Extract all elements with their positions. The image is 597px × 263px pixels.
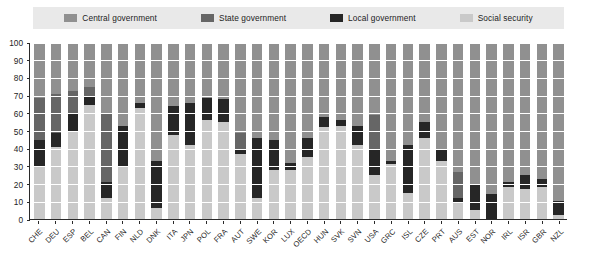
bar-segment: [185, 43, 195, 103]
bar-slot: [31, 43, 48, 219]
x-tick-label: FRA: [212, 227, 229, 244]
y-tick-mark: [27, 60, 30, 61]
bar-slot: [182, 43, 199, 219]
stacked-bar[interactable]: [453, 43, 463, 219]
y-tick-label: 90: [14, 56, 23, 66]
bar-segment: [553, 43, 563, 201]
stacked-bar[interactable]: [302, 43, 312, 219]
bar-slot: [249, 43, 266, 219]
bar-slot: [366, 43, 383, 219]
bar-segment: [168, 43, 178, 106]
stacked-bar[interactable]: [285, 43, 295, 219]
bar-slot: [349, 43, 366, 219]
stacked-bar[interactable]: [386, 43, 396, 219]
stacked-bar[interactable]: [553, 43, 563, 219]
x-tick-mark: [340, 221, 341, 224]
bar-segment: [68, 91, 78, 114]
stacked-bar[interactable]: [352, 43, 362, 219]
x-tick-slot: AUT: [231, 221, 248, 263]
stacked-bar[interactable]: [520, 43, 530, 219]
x-tick-label: CZE: [413, 227, 430, 244]
stacked-bar[interactable]: [403, 43, 413, 219]
bar-segment: [553, 215, 563, 219]
x-tick-mark: [257, 221, 258, 224]
bar-segment: [436, 43, 446, 149]
bar-segment: [202, 120, 212, 219]
stacked-bar[interactable]: [168, 43, 178, 219]
stacked-bar[interactable]: [336, 43, 346, 219]
y-tick-mark: [27, 220, 30, 221]
x-tick-mark: [525, 221, 526, 224]
y-tick-mark: [27, 78, 30, 79]
bar-segment: [336, 43, 346, 120]
stacked-bar[interactable]: [101, 43, 111, 219]
stacked-bar[interactable]: [369, 43, 379, 219]
stacked-bar[interactable]: [419, 43, 429, 219]
x-tick-label: AUT: [229, 227, 246, 244]
bar-segment: [285, 170, 295, 219]
bar-segment: [101, 182, 111, 198]
stacked-bar[interactable]: [202, 43, 212, 219]
bar-segment: [118, 166, 128, 219]
x-tick-mark: [189, 221, 190, 224]
stacked-bar[interactable]: [84, 43, 94, 219]
stacked-bar[interactable]: [218, 43, 228, 219]
bar-segment: [235, 154, 245, 219]
stacked-bar[interactable]: [51, 43, 61, 219]
bar-segment: [352, 126, 362, 145]
bar-segment: [470, 43, 480, 184]
bar-segment: [285, 163, 295, 170]
stacked-bar[interactable]: [34, 43, 44, 219]
stacked-bar[interactable]: [486, 43, 496, 219]
x-tick-mark: [542, 221, 543, 224]
bar-slot: [316, 43, 333, 219]
chart-legend: Central government State government Loca…: [33, 7, 564, 29]
x-tick-label: GBR: [530, 227, 548, 245]
x-tick-slot: EST: [466, 221, 483, 263]
bar-slot: [333, 43, 350, 219]
stacked-bar[interactable]: [503, 43, 513, 219]
x-tick-slot: ITA: [164, 221, 181, 263]
x-tick-slot: FRA: [215, 221, 232, 263]
stacked-bar[interactable]: [252, 43, 262, 219]
stacked-bar[interactable]: [135, 43, 145, 219]
stacked-bar[interactable]: [68, 43, 78, 219]
stacked-bar[interactable]: [436, 43, 446, 219]
bar-segment: [453, 172, 463, 198]
x-tick-mark: [55, 221, 56, 224]
bar-segment: [419, 43, 429, 122]
x-tick-slot: NZL: [550, 221, 567, 263]
bar-segment: [118, 43, 128, 126]
x-tick-mark: [374, 221, 375, 224]
stacked-bar[interactable]: [319, 43, 329, 219]
x-tick-slot: DEU: [47, 221, 64, 263]
x-tick-mark: [240, 221, 241, 224]
bar-slot: [165, 43, 182, 219]
bar-segment: [269, 140, 279, 170]
stacked-bar[interactable]: [470, 43, 480, 219]
x-tick-slot: USA: [366, 221, 383, 263]
bar-segment: [218, 99, 228, 122]
bar-segment: [419, 122, 429, 138]
x-tick-slot: KOR: [265, 221, 282, 263]
legend-label-local-government: Local government: [348, 13, 416, 23]
bar-segment: [151, 208, 161, 219]
x-tick-label: NLD: [128, 227, 145, 244]
x-tick-mark: [206, 221, 207, 224]
x-tick-label: BEL: [78, 227, 95, 244]
stacked-bar[interactable]: [537, 43, 547, 219]
x-tick-slot: ISR: [517, 221, 534, 263]
stacked-bar[interactable]: [185, 43, 195, 219]
x-tick-slot: NLD: [131, 221, 148, 263]
stacked-bar[interactable]: [151, 43, 161, 219]
bar-segment: [319, 127, 329, 219]
bar-segment: [218, 43, 228, 99]
bar-segment: [369, 175, 379, 219]
bar-segment: [336, 126, 346, 219]
stacked-bar[interactable]: [118, 43, 128, 219]
bar-segment: [51, 94, 61, 133]
y-tick-label: 50: [14, 127, 23, 137]
stacked-bar[interactable]: [269, 43, 279, 219]
x-tick-slot: GBR: [533, 221, 550, 263]
stacked-bar[interactable]: [235, 43, 245, 219]
